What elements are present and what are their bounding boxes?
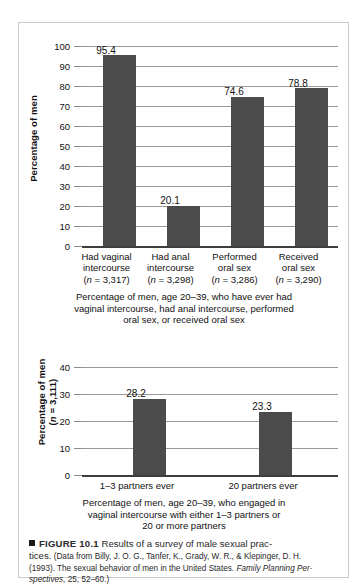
chart-bottom-tickmark: [74, 421, 82, 422]
caption-source-journal-cont: spectives,: [29, 575, 65, 584]
chart-top-ytick-20: 20: [46, 202, 70, 212]
chart-top-baseline: [82, 246, 338, 248]
chart-top-tickmark: [74, 66, 82, 67]
chart-bottom-category-label-1: 20 partners ever: [214, 480, 312, 491]
chart-bottom-category-label-0: 1–3 partners ever: [88, 480, 186, 491]
chart-top-category-line1: Had anal: [138, 251, 203, 262]
chart-bottom-desc-line1: Percentage of men, age 20–39, who engage…: [39, 497, 329, 509]
chart-bottom-tickmark: [74, 367, 82, 368]
chart-bottom-gridline: [82, 448, 338, 449]
chart-top-category-line2: intercourse: [138, 262, 203, 273]
chart-top-category-line1: Received: [266, 251, 331, 262]
chart-top-category-line2: oral sex: [202, 262, 267, 273]
chart-bottom-ytick-40: 40: [46, 363, 70, 373]
chart-top-category-line2: intercourse: [74, 262, 139, 273]
chart-top-tickmark: [74, 126, 82, 127]
chart-top-tickmark: [74, 146, 82, 147]
chart-bottom-tickmark: [74, 394, 82, 395]
chart-top-category-n: (n = 3,286): [202, 274, 267, 285]
chart-bottom-bar-1-3-partners-ever: [133, 399, 166, 475]
figure-container: Percentage of men 100 90 80 70 60 50 40 …: [18, 22, 349, 578]
chart-top-tickmark: [74, 86, 82, 87]
chart-top-plot-area: [82, 46, 338, 246]
chart-bottom-tickmark: [74, 475, 82, 476]
chart-bottom-plot-area: [82, 367, 338, 475]
chart-top-ytick-0: 0: [46, 242, 70, 252]
chart-bottom-gridline: [82, 367, 338, 368]
chart-top-ytick-40: 40: [46, 162, 70, 172]
chart-top-category-n: (n = 3,317): [74, 274, 139, 285]
chart-top-category-n: (n = 3,298): [138, 274, 203, 285]
chart-top-category-line1: Performed: [202, 251, 267, 262]
chart-top-category-label-3: Received oral sex (n = 3,290): [266, 251, 331, 285]
chart-bottom: Percentage of men (n = 3,111) 40 30 20 1…: [19, 341, 348, 531]
chart-top-value-label: 78.8: [273, 79, 323, 89]
chart-top-ytick-50: 50: [46, 142, 70, 152]
chart-top-category-line2: oral sex: [266, 262, 331, 273]
chart-bottom-ytick-10: 10: [46, 444, 70, 454]
chart-bottom-value-label: 28.2: [111, 389, 161, 399]
chart-top-value-label: 20.1: [145, 196, 195, 206]
chart-top-desc-line3: oral sex, or received oral sex: [39, 314, 329, 326]
chart-bottom-desc-line2: vaginal intercourse with either 1–3 part…: [39, 509, 329, 521]
caption-marker-icon: [29, 540, 35, 546]
chart-top-tickmark: [74, 166, 82, 167]
chart-top-category-line1: Had vaginal: [74, 251, 139, 262]
chart-top-bar-had-anal-intercourse: [167, 206, 200, 246]
chart-top-ytick-30: 30: [46, 182, 70, 192]
caption-lead-text: Results of a survey of male sexual prac-: [101, 538, 272, 549]
chart-top-ytick-90: 90: [46, 62, 70, 72]
chart-top-tickmark: [74, 246, 82, 247]
chart-top-bar-received-oral-sex: [295, 88, 328, 246]
chart-top-tickmark: [74, 206, 82, 207]
chart-top-ytick-100: 100: [46, 42, 70, 52]
chart-top-ytick-70: 70: [46, 102, 70, 112]
chart-bottom-bar-20-partners-ever: [259, 412, 292, 475]
chart-top-bar-performed-oral-sex: [231, 97, 264, 246]
chart-bottom-tickmark: [74, 448, 82, 449]
chart-top-category-n: (n = 3,290): [266, 274, 331, 285]
caption-source-line-2: (1993). The sexual behavior of men in th…: [29, 564, 234, 573]
chart-bottom-ytick-20: 20: [46, 417, 70, 427]
chart-top-value-label: 95.4: [81, 46, 131, 56]
chart-top-desc-line1: Percentage of men, age 20–39, who have e…: [39, 291, 329, 303]
chart-top-category-label-0: Had vaginal intercourse (n = 3,317): [74, 251, 139, 285]
caption-lead-text-2: tices.: [29, 550, 51, 561]
chart-top-x-axis-description: Percentage of men, age 20–39, who have e…: [39, 291, 329, 326]
chart-bottom-x-axis-description: Percentage of men, age 20–39, who engage…: [39, 497, 329, 532]
chart-bottom-baseline: [82, 475, 338, 477]
chart-bottom-gridline: [82, 421, 338, 422]
caption-source-pages: 25, 52–60.): [68, 575, 109, 584]
chart-bottom-desc-line3: 20 or more partners: [39, 520, 329, 532]
caption-figure-number: FIGURE 10.1: [39, 538, 99, 549]
chart-top-ytick-10: 10: [46, 222, 70, 232]
chart-top-ytick-80: 80: [46, 82, 70, 92]
chart-bottom-ytick-0: 0: [46, 471, 70, 481]
chart-top-category-label-2: Performed oral sex (n = 3,286): [202, 251, 267, 285]
chart-top-y-axis-title: Percentage of men: [28, 79, 39, 199]
chart-top-tickmark: [74, 226, 82, 227]
chart-top-value-label: 74.6: [209, 87, 259, 97]
chart-top-tickmark: [74, 106, 82, 107]
chart-top-bar-had-vaginal-intercourse: [103, 55, 136, 246]
figure-caption: FIGURE 10.1 Results of a survey of male …: [29, 538, 341, 586]
caption-source-line-1: (Data from Billy, J. O. G., Tanfer, K., …: [54, 552, 302, 561]
caption-source-journal: Family Planning Per-: [236, 564, 312, 573]
chart-top-desc-line2: vaginal intercourse, had anal intercours…: [39, 303, 329, 315]
chart-top-tickmark: [74, 186, 82, 187]
chart-top-ytick-60: 60: [46, 122, 70, 132]
chart-top: Percentage of men 100 90 80 70 60 50 40 …: [19, 23, 348, 341]
chart-bottom-ytick-30: 30: [46, 390, 70, 400]
chart-top-y-axis-title-line1: Percentage of men: [28, 95, 39, 182]
chart-top-category-label-1: Had anal intercourse (n = 3,298): [138, 251, 203, 285]
chart-bottom-value-label: 23.3: [237, 402, 287, 412]
